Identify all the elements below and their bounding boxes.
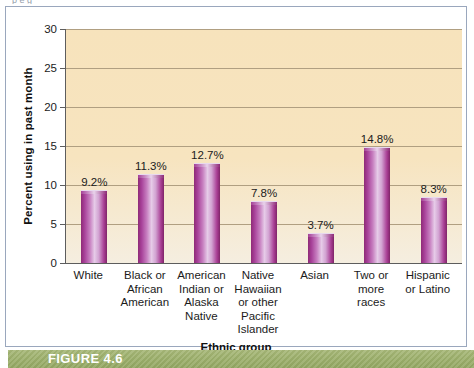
- bar-value-label: 11.3%: [135, 160, 167, 172]
- bar-cap: [421, 198, 447, 201]
- x-axis-category-label: Black orAfricanAmerican: [113, 269, 178, 310]
- x-axis-category-label: White: [56, 269, 121, 283]
- y-axis-tick-label: 25: [44, 62, 57, 74]
- x-axis-category-line: White: [56, 269, 121, 283]
- bar: 8.3%: [421, 197, 447, 263]
- x-axis-category-line: American: [169, 269, 234, 283]
- gridline: [66, 29, 462, 30]
- y-axis-tick: [60, 146, 66, 147]
- x-axis-category-line: Indian or: [169, 283, 234, 297]
- x-axis-category-line: Black or: [113, 269, 178, 283]
- x-axis-category-line: more: [339, 283, 404, 297]
- y-axis-title: Percent using in past month: [20, 29, 36, 263]
- bar-value-label: 12.7%: [191, 149, 224, 161]
- gridline: [66, 107, 462, 108]
- gridline: [66, 146, 462, 147]
- x-axis-category-label: NativeHawaiianor otherPacificIslander: [226, 269, 291, 337]
- bar: 12.7%: [194, 163, 220, 263]
- x-axis-category-line: Native: [169, 310, 234, 324]
- x-axis-category-line: Hawaiian: [226, 283, 291, 297]
- y-axis-tick-label: 15: [44, 140, 57, 152]
- x-axis-category-label: Asian: [282, 269, 347, 283]
- x-axis-category-line: races: [339, 296, 404, 310]
- bar-cap: [194, 164, 220, 167]
- x-axis-category-line: Native: [226, 269, 291, 283]
- x-axis-category-label: Two ormoreraces: [339, 269, 404, 310]
- clipped-top-text: p e g: [12, 0, 312, 4]
- x-axis-category-label: Hispanicor Latino: [395, 269, 460, 296]
- bar-value-label: 3.7%: [307, 219, 333, 231]
- gridline: [66, 185, 462, 186]
- y-axis-title-label: Percent using in past month: [22, 67, 34, 224]
- x-axis-category-line: or Latino: [395, 283, 460, 297]
- y-axis-tick: [60, 224, 66, 225]
- y-axis-tick-label: 10: [44, 179, 57, 191]
- y-axis-tick: [60, 263, 66, 264]
- x-axis-category-line: Hispanic: [395, 269, 460, 283]
- bar-cap: [138, 175, 164, 178]
- x-axis-category-line: American: [113, 296, 178, 310]
- y-axis-tick-label: 30: [44, 23, 57, 35]
- figure-frame: Percent using in past month 051015202530…: [5, 6, 467, 347]
- bar-cap: [364, 148, 390, 151]
- y-axis-tick: [60, 68, 66, 69]
- bar-value-label: 9.2%: [81, 176, 107, 188]
- x-axis-category-line: African: [113, 283, 178, 297]
- x-axis-category-line: Pacific: [226, 310, 291, 324]
- bar: 3.7%: [308, 233, 334, 263]
- bar: 9.2%: [81, 190, 107, 263]
- bar-cap: [251, 202, 277, 205]
- x-axis-category-line: Asian: [282, 269, 347, 283]
- bar-value-label: 14.8%: [361, 133, 394, 145]
- bar-cap: [81, 191, 107, 194]
- x-axis-category-line: Islander: [226, 323, 291, 337]
- x-axis-category-line: Two or: [339, 269, 404, 283]
- y-axis-tick-label: 5: [51, 218, 57, 230]
- figure-4-6: p e g Percent using in past month 051015…: [0, 0, 474, 368]
- figure-caption-label: FIGURE 4.6: [48, 350, 123, 368]
- y-axis-tick-label: 20: [44, 101, 57, 113]
- plot-area: 0510152025309.2%11.3%12.7%7.8%3.7%14.8%8…: [65, 29, 462, 264]
- bar-value-label: 8.3%: [421, 183, 447, 195]
- y-axis-tick-label: 0: [51, 257, 57, 269]
- y-axis-tick: [60, 107, 66, 108]
- x-axis-category-line: Alaska: [169, 296, 234, 310]
- gridline: [66, 68, 462, 69]
- bar: 7.8%: [251, 201, 277, 263]
- x-axis-category-label: AmericanIndian orAlaskaNative: [169, 269, 234, 323]
- y-axis-tick: [60, 29, 66, 30]
- bar-value-label: 7.8%: [251, 187, 277, 199]
- x-axis-category-line: or other: [226, 296, 291, 310]
- bar: 14.8%: [364, 147, 390, 263]
- y-axis-tick: [60, 185, 66, 186]
- bar: 11.3%: [138, 174, 164, 263]
- bar-cap: [308, 234, 334, 237]
